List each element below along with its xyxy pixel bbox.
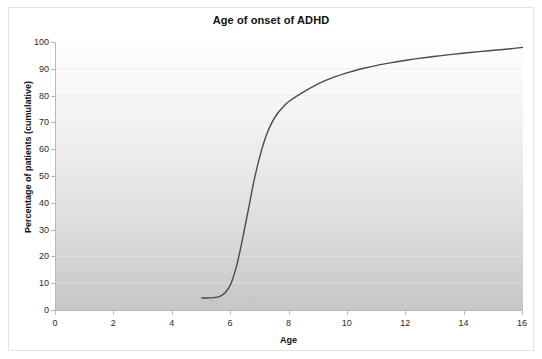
- y-tick-mark: [51, 256, 55, 257]
- y-tick-mark: [51, 283, 55, 284]
- x-tick-mark: [522, 311, 523, 315]
- y-tick-label: 0: [5, 305, 49, 315]
- x-tick-mark: [230, 311, 231, 315]
- x-tick-label: 0: [35, 318, 75, 328]
- line-series-cumulative-percentage: [202, 47, 523, 298]
- x-tick-mark: [172, 311, 173, 315]
- gridlines: [56, 42, 523, 283]
- plot-svg: [56, 42, 523, 310]
- x-tick-label: 4: [152, 318, 192, 328]
- x-tick-mark: [55, 311, 56, 315]
- y-tick-mark: [51, 69, 55, 70]
- x-tick-mark: [289, 311, 290, 315]
- y-tick-mark: [51, 122, 55, 123]
- x-tick-label: 2: [93, 318, 133, 328]
- x-tick-label: 14: [444, 318, 484, 328]
- y-tick-label: 100: [5, 37, 49, 47]
- y-tick-mark: [51, 230, 55, 231]
- chart-figure: Age of onset of ADHD 0102030405060708090…: [0, 0, 542, 359]
- plot-area: [55, 42, 523, 311]
- y-tick-mark: [51, 96, 55, 97]
- x-axis-title: Age: [55, 335, 522, 345]
- x-tick-mark: [405, 311, 406, 315]
- x-tick-label: 8: [269, 318, 309, 328]
- y-tick-mark: [51, 42, 55, 43]
- x-tick-mark: [464, 311, 465, 315]
- y-axis-title: Percentage of patients (cumulative): [23, 57, 33, 257]
- x-tick-label: 16: [502, 318, 542, 328]
- x-tick-label: 12: [385, 318, 425, 328]
- y-tick-label: 10: [5, 278, 49, 288]
- x-tick-mark: [113, 311, 114, 315]
- x-tick-mark: [347, 311, 348, 315]
- x-tick-label: 10: [327, 318, 367, 328]
- x-tick-label: 6: [210, 318, 250, 328]
- y-tick-mark: [51, 176, 55, 177]
- chart-title: Age of onset of ADHD: [0, 14, 542, 26]
- y-tick-mark: [51, 149, 55, 150]
- y-tick-mark: [51, 203, 55, 204]
